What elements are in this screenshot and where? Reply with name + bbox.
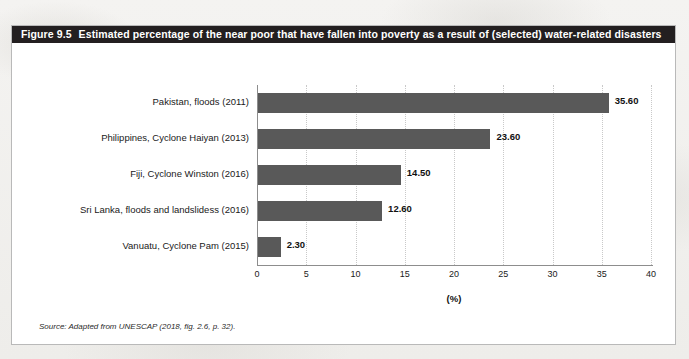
bar-value-label: 35.60 xyxy=(615,95,639,106)
x-tick-label: 40 xyxy=(646,269,656,279)
x-tick-label: 20 xyxy=(449,269,459,279)
bar-value-label: 23.60 xyxy=(496,131,520,142)
figure-title: Figure 9.5Estimated percentage of the ne… xyxy=(21,28,662,40)
category-label: Sri Lanka, floods and landslidess (2016) xyxy=(80,204,249,215)
bar-row: Vanuatu, Cyclone Pam (2015)2.30 xyxy=(257,229,651,265)
bar-row: Philippines, Cyclone Haiyan (2013)23.60 xyxy=(257,121,651,157)
x-tick-label: 10 xyxy=(350,269,360,279)
bar-row: Fiji, Cyclone Winston (2016)14.50 xyxy=(257,157,651,193)
category-label: Pakistan, floods (2011) xyxy=(153,96,249,107)
x-tick-label: 25 xyxy=(498,269,508,279)
category-label: Fiji, Cyclone Winston (2016) xyxy=(130,168,249,179)
bar-value-label: 12.60 xyxy=(388,203,412,214)
bar[interactable] xyxy=(258,201,382,221)
x-tick-label: 5 xyxy=(304,269,309,279)
gridline xyxy=(651,85,652,265)
bar-value-label: 2.30 xyxy=(287,239,306,250)
x-tick-label: 35 xyxy=(597,269,607,279)
category-label: Philippines, Cyclone Haiyan (2013) xyxy=(101,132,249,143)
bar-row: Sri Lanka, floods and landslidess (2016)… xyxy=(257,193,651,229)
x-tick-label: 0 xyxy=(254,269,259,279)
x-tick-label: 30 xyxy=(547,269,557,279)
chart-body: Pakistan, floods (2011)35.60Philippines,… xyxy=(12,43,675,346)
plot-area: Pakistan, floods (2011)35.60Philippines,… xyxy=(257,85,651,265)
source-note: Source: Adapted from UNESCAP (2018, fig.… xyxy=(39,322,235,331)
x-tick-label: 15 xyxy=(400,269,410,279)
figure-title-text: Estimated percentage of the near poor th… xyxy=(79,28,662,40)
category-label: Vanuatu, Cyclone Pam (2015) xyxy=(122,240,249,251)
bar[interactable] xyxy=(258,93,609,113)
figure-title-bar: Figure 9.5Estimated percentage of the ne… xyxy=(12,26,675,43)
x-axis-title: (%) xyxy=(257,293,651,304)
figure-frame: Figure 9.5Estimated percentage of the ne… xyxy=(11,25,676,345)
bar[interactable] xyxy=(258,129,490,149)
bar[interactable] xyxy=(258,237,281,257)
bar-row: Pakistan, floods (2011)35.60 xyxy=(257,85,651,121)
bar[interactable] xyxy=(258,165,401,185)
bar-value-label: 14.50 xyxy=(407,167,431,178)
figure-number: Figure 9.5 xyxy=(21,28,72,40)
x-axis-line xyxy=(257,265,653,266)
